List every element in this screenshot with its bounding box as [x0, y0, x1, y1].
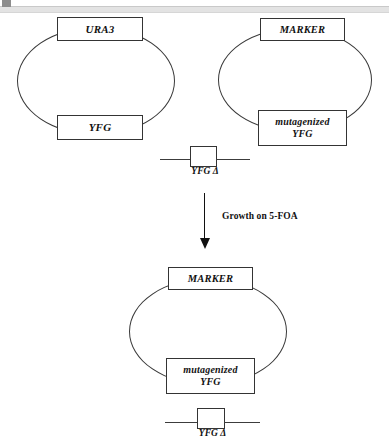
gene-label-result-mutagenized-yfg: YFG	[200, 376, 221, 388]
arrow-head-icon	[200, 238, 210, 249]
construct-arm-right-top	[216, 159, 250, 160]
arrow-label-growth-5foa: Growth on 5-FOA	[222, 211, 298, 221]
construct-label-yfg-delta-bottom: YFG Δ	[165, 428, 260, 438]
gene-label-mutagenized-yfg: YFG	[292, 128, 313, 140]
gene-box-yfg: YFG	[57, 115, 143, 140]
gene-label-marker: MARKER	[280, 24, 326, 36]
gene-label-ura3: URA3	[86, 23, 115, 35]
gene-box-result-marker: MARKER	[168, 267, 253, 290]
gene-label-yfg: YFG	[89, 121, 112, 133]
gene-label-mutagenized: mutagenized	[275, 116, 329, 128]
gene-label-result-mutagenized: mutagenized	[183, 364, 237, 376]
plasmid-marker-mutagenized: MARKER mutagenized YFG	[205, 0, 389, 160]
plasmid-ura3: URA3 YFG	[0, 0, 195, 160]
construct-label-yfg-delta-top: YFG Δ	[160, 166, 250, 176]
construct-yfg-delta-top: YFG Δ	[160, 142, 250, 176]
plasmid-result: MARKER mutagenized YFG	[120, 255, 305, 395]
gene-label-result-marker: MARKER	[188, 273, 234, 285]
construct-arm-right-bottom	[224, 422, 260, 423]
construct-yfg-delta-bottom: YFG Δ	[165, 405, 260, 439]
construct-box-bottom	[197, 408, 225, 429]
gene-box-mutagenized-yfg: mutagenized YFG	[258, 110, 347, 146]
gene-box-marker: MARKER	[260, 18, 345, 41]
gene-box-result-mutagenized-yfg: mutagenized YFG	[166, 358, 255, 394]
construct-box-top	[190, 146, 217, 167]
arrow-shaft	[204, 193, 205, 240]
construct-arm-left-top	[160, 159, 191, 160]
construct-arm-left-bottom	[165, 422, 198, 423]
plasmid-shuffle-figure: URA3 YFG MARKER mutagenized YFG YFG Δ Gr…	[0, 0, 389, 445]
gene-box-ura3: URA3	[57, 17, 143, 41]
